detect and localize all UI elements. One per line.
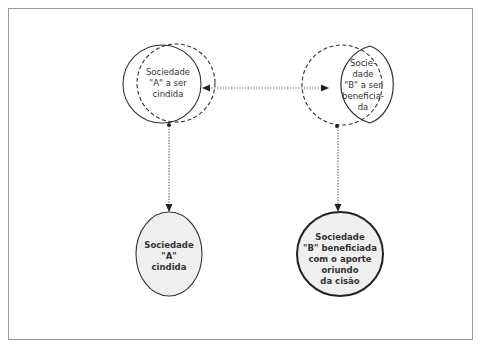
- label-line: da: [338, 102, 388, 113]
- label-line: "A" a ser: [133, 78, 203, 89]
- label-line: Sociedade: [134, 240, 204, 251]
- label-line: cindida: [134, 262, 204, 273]
- company-a-to-split-label: Sociedade "A" a ser cindida: [133, 67, 203, 100]
- label-line: Socie-: [338, 58, 388, 69]
- label-line: beneficia-: [338, 91, 388, 102]
- label-line: Sociedade: [133, 67, 203, 78]
- company-a-split-result-label: Sociedade "A" cindida: [134, 240, 204, 273]
- label-line: oriundo: [295, 265, 385, 276]
- diagram-canvas: [0, 0, 481, 351]
- company-b-result-label: Sociedade "B" beneficiada com o aporte o…: [295, 232, 385, 287]
- label-line: com o aporte: [295, 254, 385, 265]
- company-b-beneficiary-label: Socie- dade "B" a ser beneficia- da: [338, 58, 388, 113]
- label-line: Sociedade: [295, 232, 385, 243]
- label-line: "B" beneficiada: [295, 243, 385, 254]
- label-line: "B" a ser: [338, 80, 388, 91]
- label-line: da cisão: [295, 276, 385, 287]
- label-line: "A": [134, 251, 204, 262]
- label-line: cindida: [133, 89, 203, 100]
- label-line: dade: [338, 69, 388, 80]
